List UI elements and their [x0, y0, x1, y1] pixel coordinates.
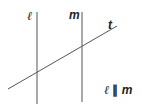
label-t: t: [108, 19, 112, 31]
parallel-relation: ℓ ∥ m: [104, 84, 132, 96]
label-m: m: [69, 9, 80, 21]
label-l: ℓ: [27, 10, 32, 22]
parallel-lines-diagram: ℓ m t ℓ ∥ m: [0, 0, 142, 108]
relation-right: m: [122, 83, 133, 97]
transversal-t: [8, 26, 117, 89]
parallel-symbol: ∥: [112, 83, 118, 97]
relation-left: ℓ: [104, 83, 109, 97]
